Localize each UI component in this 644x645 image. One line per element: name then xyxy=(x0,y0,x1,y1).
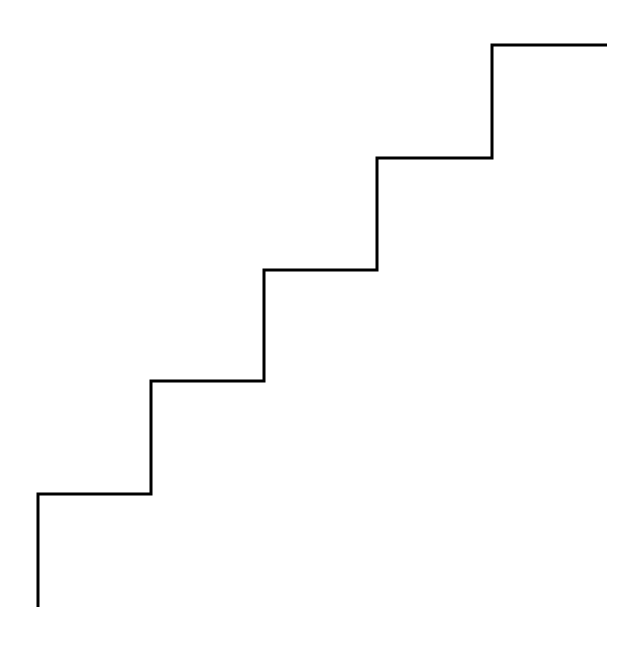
staircase-line xyxy=(38,45,607,607)
staircase-diagram xyxy=(0,0,644,645)
